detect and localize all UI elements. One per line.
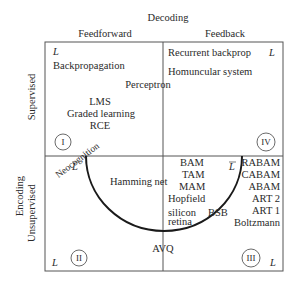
retina-label: retina	[168, 216, 192, 228]
hopfield-label: Hopfield	[168, 193, 205, 205]
decoding-title: Decoding	[143, 12, 193, 24]
graded-learning-label: Graded learning	[65, 108, 137, 120]
lms-label: LMS	[80, 96, 120, 108]
mam-label: MAM	[179, 181, 205, 193]
quadrant-ii-numeral: II	[71, 252, 87, 264]
encoding-title: Encoding	[14, 161, 26, 231]
lbar-left: L	[72, 161, 78, 173]
feedforward-header: Feedforward	[70, 28, 140, 40]
bam-label: BAM	[180, 157, 204, 169]
recurrent-backprop-label: Recurrent backprop	[168, 47, 251, 59]
avq-label: AVQ	[143, 243, 183, 255]
q4-marker: L	[269, 47, 275, 59]
supervised-label: Supervised	[26, 67, 38, 127]
quadrant-iv-numeral: IV	[256, 136, 276, 148]
feedback-header: Feedback	[195, 28, 255, 40]
q2-marker: L	[52, 257, 58, 269]
homuncular-system-label: Homuncular system	[168, 66, 252, 78]
unsupervised-feedback-arc	[86, 156, 242, 231]
hamming-net-label: Hamming net	[110, 176, 167, 188]
q3-marker: L	[270, 257, 276, 269]
quadrant-iii-numeral: III	[241, 252, 261, 264]
backpropagation-label: Backpropagation	[53, 60, 125, 72]
rce-label: RCE	[80, 120, 120, 132]
q1-marker: L	[53, 46, 59, 58]
tam-label: TAM	[182, 169, 205, 181]
art2-label: ART 2	[230, 193, 280, 205]
rabam-label: RABAM	[230, 157, 280, 169]
abam-label: ABAM	[230, 181, 280, 193]
quadrant-i-numeral: I	[55, 136, 71, 148]
perceptron-label: Perceptron	[118, 79, 178, 91]
unsupervised-label: Unsupervised	[26, 178, 38, 248]
art1-label: ART 1	[230, 205, 280, 217]
boltzmann-label: Boltzmann	[220, 217, 280, 229]
cabam-label: CABAM	[230, 169, 280, 181]
